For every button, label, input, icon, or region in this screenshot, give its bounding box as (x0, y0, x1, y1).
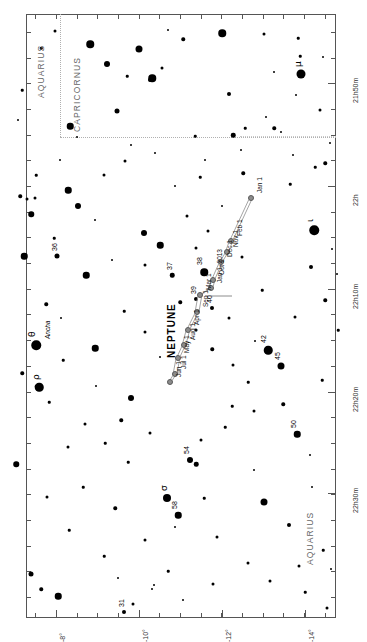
star-marker (194, 135, 197, 138)
ra-tick-minor (331, 186, 336, 187)
star-marker (62, 359, 65, 362)
ra-tick-minor (26, 494, 31, 495)
star-marker (26, 198, 29, 201)
star-marker (210, 306, 214, 310)
star-marker (92, 345, 99, 352)
star-marker (272, 126, 276, 130)
star-marker (210, 347, 214, 351)
star-label: 42 (260, 335, 267, 343)
ra-tick-minor (331, 392, 336, 393)
star-marker (104, 442, 107, 445)
neptune-date-label: Dec 1 (226, 240, 233, 257)
dec-tick-label: -8° (59, 633, 66, 642)
star-marker (254, 340, 256, 342)
star-marker (31, 340, 41, 350)
dec-tick-minor (56, 14, 57, 19)
constellation-label-aquarius-bottom: AQUARIUS (305, 512, 315, 565)
star-marker (194, 297, 198, 301)
star-marker (153, 584, 155, 586)
star-marker (94, 219, 96, 221)
ra-tick-minor (331, 58, 336, 59)
dec-tick-minor (221, 14, 222, 19)
star-marker (273, 71, 275, 73)
star-marker (331, 248, 333, 250)
star-marker (44, 302, 48, 306)
star-marker (132, 603, 135, 606)
star-marker (203, 497, 206, 500)
ra-tick-minor (331, 340, 336, 341)
star-marker (119, 418, 123, 422)
star-marker (103, 174, 106, 177)
ra-tick-minor (331, 546, 336, 547)
dec-tick-minor (159, 14, 160, 19)
star-marker (200, 439, 203, 442)
dec-tick-minor (118, 613, 119, 618)
ra-tick-minor (26, 32, 31, 33)
star-label: ι (305, 219, 315, 222)
ecliptic-line (240, 136, 336, 137)
star-marker (241, 171, 245, 175)
star-marker (21, 253, 28, 260)
star-marker (178, 300, 182, 304)
ra-tick-minor (26, 160, 31, 161)
star-marker (314, 166, 317, 169)
star-marker (127, 461, 130, 464)
star-marker (130, 144, 132, 146)
ra-tick-minor (26, 263, 31, 264)
star-marker (297, 70, 306, 79)
star-marker (35, 174, 38, 177)
star-marker (336, 273, 338, 275)
neptune-date-label: Aug 1 (189, 323, 196, 340)
dec-tick-minor (35, 613, 36, 618)
star-marker (149, 432, 152, 435)
ra-tick-minor (26, 237, 31, 238)
star-marker (123, 310, 126, 313)
star-marker (231, 405, 234, 408)
constellation-label-capricornus: CAPRICORNUS (72, 57, 82, 132)
ra-tick-label: 22h30m (352, 488, 359, 513)
star-label: 45 (274, 352, 281, 360)
dec-tick-minor (325, 613, 326, 618)
star-marker (241, 256, 244, 259)
star-marker (253, 469, 255, 471)
star-label: 37 (166, 262, 173, 270)
star-marker (54, 30, 57, 33)
star-marker (337, 329, 340, 332)
star-marker (278, 363, 285, 370)
ra-tick-minor (26, 469, 31, 470)
dec-tick-minor (139, 613, 140, 618)
star-marker (126, 75, 129, 78)
star-label: 39 (190, 286, 197, 294)
star-marker (195, 247, 198, 250)
star-marker (13, 461, 19, 467)
dec-tick-minor (201, 613, 202, 618)
star-marker (228, 317, 231, 320)
star-marker (148, 78, 152, 82)
dec-tick-minor (35, 14, 36, 19)
star-marker (17, 119, 19, 121)
dec-tick-label: -14° (308, 629, 315, 642)
ra-tick-minor (26, 314, 31, 315)
star-marker (117, 577, 119, 579)
star-label: 54 (183, 446, 190, 454)
star-marker (163, 494, 171, 502)
dec-tick-minor (242, 14, 243, 19)
ra-tick-minor (331, 417, 336, 418)
star-marker (287, 523, 291, 527)
star-marker (289, 183, 292, 186)
neptune-position-marker (167, 379, 173, 385)
ra-tick-minor (26, 289, 31, 290)
star-marker (46, 496, 49, 499)
star-marker (111, 259, 113, 261)
ra-tick-minor (331, 366, 336, 367)
star-label: σ (159, 485, 169, 491)
ra-tick-minor (331, 443, 336, 444)
star-marker (261, 289, 264, 292)
star-marker (280, 131, 282, 133)
star-marker (95, 385, 97, 387)
star-marker (136, 46, 143, 53)
ra-tick-minor (331, 109, 336, 110)
star-marker (265, 116, 267, 118)
ra-tick-label: 22h10m (352, 284, 359, 309)
